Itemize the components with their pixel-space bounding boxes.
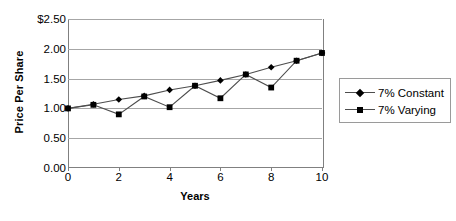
data-point-square <box>243 72 249 78</box>
data-point-square <box>294 58 300 64</box>
data-point-diamond <box>116 96 123 103</box>
x-tick-mark <box>220 167 221 171</box>
data-point-square <box>141 94 147 100</box>
square-marker-icon <box>345 103 375 117</box>
x-tick-mark <box>68 167 69 171</box>
data-point-square <box>192 83 198 89</box>
data-point-square <box>268 85 274 91</box>
price-per-share-line-chart: Price Per Share $2.502.001.501.000.500.0… <box>0 0 456 221</box>
y-tick-label: 1.50 <box>14 73 66 85</box>
data-point-square <box>167 104 173 110</box>
data-point-diamond <box>166 87 173 94</box>
data-point-square <box>91 102 97 108</box>
x-tick-mark <box>170 167 171 171</box>
legend-item-varying: 7% Varying <box>340 101 450 118</box>
series-line <box>68 53 322 108</box>
x-tick-mark <box>322 167 323 171</box>
x-tick-label: 0 <box>53 171 83 184</box>
data-point-square <box>65 106 71 112</box>
diamond-marker-icon <box>345 86 375 100</box>
series-constant <box>65 50 326 112</box>
x-tick-label: 10 <box>307 171 337 184</box>
x-axis-line <box>68 167 322 168</box>
y-tick-label: 0.50 <box>14 132 66 144</box>
data-point-square <box>319 50 325 56</box>
x-tick-label: 2 <box>104 171 134 184</box>
x-axis-tick-labels: 0246810 <box>68 171 322 189</box>
x-tick-label: 6 <box>205 171 235 184</box>
x-tick-mark <box>119 167 120 171</box>
data-point-diamond <box>268 64 275 71</box>
data-point-diamond <box>217 77 224 84</box>
x-tick-mark <box>271 167 272 171</box>
y-tick-label: 2.00 <box>14 43 66 55</box>
x-tick-label: 4 <box>155 171 185 184</box>
x-axis-title: Years <box>68 190 322 202</box>
data-point-square <box>218 95 224 101</box>
legend-label-varying: 7% Varying <box>375 104 436 116</box>
plot-area <box>68 19 322 168</box>
legend-label-constant: 7% Constant <box>375 87 444 99</box>
chart-legend: 7% Constant 7% Varying <box>339 78 451 123</box>
series-varying <box>65 50 325 117</box>
data-point-square <box>116 111 122 117</box>
y-axis-tick-labels: $2.502.001.501.000.500.00 <box>10 0 66 221</box>
y-tick-label: 1.00 <box>14 102 66 114</box>
series-layer <box>68 19 322 168</box>
legend-item-constant: 7% Constant <box>340 84 450 101</box>
y-tick-label: $2.50 <box>14 13 66 25</box>
x-tick-label: 8 <box>256 171 286 184</box>
